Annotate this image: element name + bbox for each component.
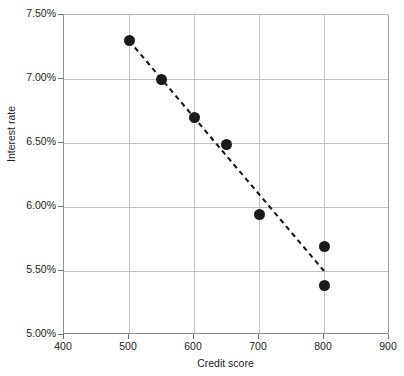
scatter-chart: 5.00%5.50%6.00%6.50%7.00%7.50% 400500600…: [0, 0, 404, 376]
x-tick-label: 600: [168, 340, 218, 352]
y-tick-mark: [58, 142, 63, 143]
x-axis-title: Credit score: [63, 357, 388, 369]
x-tick-label: 800: [298, 340, 348, 352]
y-tick-mark: [58, 270, 63, 271]
data-layer: [64, 15, 389, 335]
y-tick-label: 5.00%: [0, 328, 56, 339]
x-tick-mark: [258, 334, 259, 339]
gridline-horizontal: [64, 143, 388, 144]
y-tick-mark: [58, 206, 63, 207]
y-tick-label: 7.50%: [0, 8, 56, 19]
x-tick-mark: [63, 334, 64, 339]
x-tick-mark: [323, 334, 324, 339]
y-tick-label: 6.00%: [0, 200, 56, 211]
trendline: [64, 15, 389, 335]
x-tick-mark: [388, 334, 389, 339]
gridline-vertical: [324, 15, 325, 333]
gridline-horizontal: [64, 79, 388, 80]
x-tick-label: 500: [103, 340, 153, 352]
gridline-horizontal: [64, 271, 388, 272]
y-tick-mark: [58, 14, 63, 15]
gridline-vertical: [388, 15, 389, 333]
data-point: [221, 139, 232, 150]
gridline-vertical: [259, 15, 260, 333]
gridline-horizontal: [64, 207, 388, 208]
x-tick-label: 700: [233, 340, 283, 352]
x-tick-mark: [128, 334, 129, 339]
x-tick-label: 400: [38, 340, 88, 352]
gridline-vertical: [129, 15, 130, 333]
x-tick-label: 900: [363, 340, 404, 352]
y-tick-label: 5.50%: [0, 264, 56, 275]
x-tick-mark: [193, 334, 194, 339]
gridline-vertical: [194, 15, 195, 333]
plot-area: [63, 14, 388, 334]
y-tick-mark: [58, 78, 63, 79]
y-axis-title: Interest rate: [5, 79, 17, 189]
